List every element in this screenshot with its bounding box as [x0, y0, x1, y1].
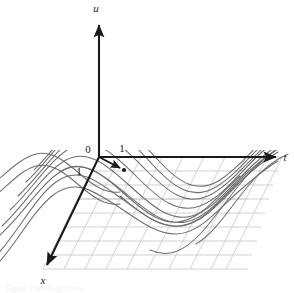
figure-container: u t x 0 1 1 Figure Travelling waves [0, 0, 294, 293]
x-unit-tick-label: 1 [76, 165, 82, 177]
t-axis-label: t [283, 151, 287, 163]
figure-caption: Figure Travelling waves [0, 284, 294, 293]
wave-curve-0 [0, 152, 278, 258]
wave-curves [0, 113, 294, 272]
wave-curve-13 [60, 166, 240, 222]
wave-plot-svg: u t x 0 1 1 [0, 0, 294, 293]
origin-tick-label: 0 [85, 143, 91, 155]
t-unit-tick-label: 1 [119, 142, 125, 154]
x-axis-line [47, 157, 99, 265]
u-axis-label: u [93, 2, 99, 14]
wave-curve-1 [0, 146, 282, 240]
unit-direction-dot [122, 168, 126, 172]
